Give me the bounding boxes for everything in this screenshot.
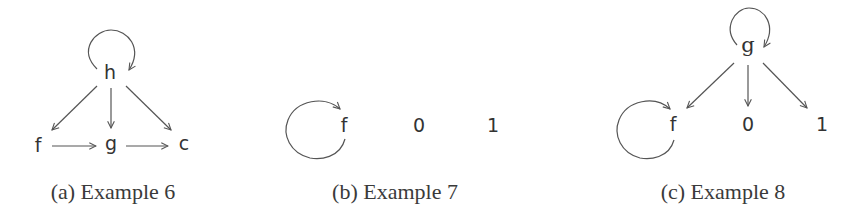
edge-f-f-self-loop (286, 101, 345, 159)
node-f: f (670, 113, 678, 135)
node-1: 1 (816, 113, 828, 135)
edge-g-f (687, 63, 734, 108)
panel-b: f 0 1 (b) Example 7 (286, 101, 499, 204)
node-c: c (179, 132, 189, 154)
node-g: g (105, 132, 117, 154)
node-h: h (104, 61, 116, 83)
node-f: f (341, 114, 349, 136)
node-0: 0 (742, 113, 754, 135)
node-1: 1 (487, 114, 499, 136)
edge-g-1 (763, 63, 807, 108)
panel-a: h f g c (a) Example 6 (35, 30, 190, 204)
edge-h-c (126, 86, 171, 130)
caption-b: (b) Example 7 (332, 179, 458, 204)
diagram-canvas: h f g c (a) Example 6 f 0 1 (b) Example … (0, 0, 862, 222)
caption-a: (a) Example 6 (51, 179, 176, 204)
caption-c: (c) Example 8 (661, 179, 786, 204)
edge-h-f (52, 86, 97, 130)
node-g: g (741, 33, 754, 57)
node-f: f (35, 134, 43, 156)
edge-f-f-self-loop (617, 101, 674, 159)
panel-c: g f 0 1 (c) Example 8 (617, 8, 828, 204)
node-0: 0 (413, 114, 425, 136)
